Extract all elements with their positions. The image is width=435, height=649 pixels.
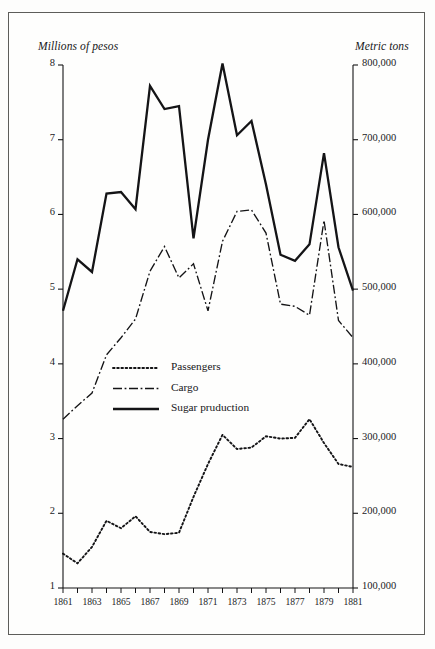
left-axis-tick-label: 5	[37, 281, 55, 292]
left-axis-tick-label: 2	[37, 505, 55, 516]
right-axis-tick-label: 100,000	[362, 580, 396, 591]
series-line-sugar-pruduction	[63, 64, 353, 311]
x-axis-tick-label: 1867	[140, 596, 159, 607]
right-axis-tick-label: 800,000	[362, 57, 396, 68]
left-axis-tick-label: 7	[37, 132, 55, 143]
chart-plot-area	[0, 0, 435, 649]
x-axis-tick-label: 1869	[169, 596, 188, 607]
x-axis-tick-label: 1871	[198, 596, 217, 607]
legend-label-passengers: Passengers	[171, 360, 221, 372]
x-axis-tick-label: 1875	[256, 596, 275, 607]
x-axis-tick-label: 1879	[314, 596, 333, 607]
right-axis-tick-label: 400,000	[362, 356, 396, 367]
left-axis-tick-label: 3	[37, 431, 55, 442]
right-axis-tick-label: 700,000	[362, 132, 396, 143]
x-axis-tick-label: 1863	[82, 596, 101, 607]
legend-label-cargo: Cargo	[171, 381, 198, 393]
chart-page: Millions of pesos Metric tons 1234567810…	[0, 0, 435, 649]
left-axis-tick-label: 8	[37, 57, 55, 68]
right-axis-tick-label: 200,000	[362, 505, 396, 516]
series-line-passengers	[63, 419, 353, 563]
x-axis-tick-label: 1881	[343, 596, 362, 607]
right-axis-tick-label: 300,000	[362, 431, 396, 442]
left-axis-tick-label: 6	[37, 206, 55, 217]
left-axis-tick-label: 4	[37, 356, 55, 367]
left-axis-tick-label: 1	[37, 580, 55, 591]
legend-label-sugar-pruduction: Sugar pruduction	[171, 401, 249, 413]
x-axis-tick-label: 1873	[227, 596, 246, 607]
right-axis-tick-label: 500,000	[362, 281, 396, 292]
x-axis-tick-label: 1861	[53, 596, 72, 607]
x-axis-tick-label: 1865	[111, 596, 130, 607]
right-axis-tick-label: 600,000	[362, 206, 396, 217]
x-axis-tick-label: 1877	[285, 596, 304, 607]
